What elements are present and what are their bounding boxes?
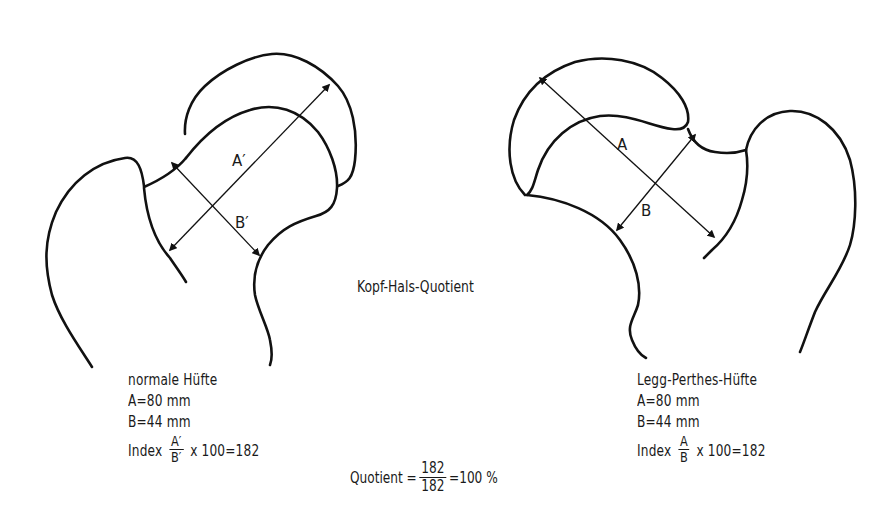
perthes-hip-index-fraction: A B: [678, 434, 690, 465]
perthes-hip-shaft-outline: [746, 111, 855, 352]
normal-hip-axis-b: [172, 163, 259, 255]
perthes-hip-axis-a: [540, 78, 714, 237]
normal-hip-title: normale Hüfte: [128, 370, 259, 391]
perthes-hip-index: Index A B x 100=182: [637, 436, 766, 467]
quotient-result: =100 %: [449, 469, 498, 487]
normal-hip-index-numerator: A′: [169, 434, 183, 450]
quotient-denominator: 182: [419, 478, 446, 495]
normal-hip-head: [186, 107, 337, 365]
perthes-hip-index-prefix: Index: [637, 442, 671, 460]
normal-hip-caption: normale Hüfte A=80 mm B=44 mm Index A′ B…: [128, 370, 259, 467]
perthes-hip-label-a: A: [617, 136, 628, 154]
normal-hip-index-fraction: A′ B′: [169, 434, 183, 465]
normal-hip-drawing: A′ B′: [46, 54, 355, 367]
perthes-hip-trochanter: [704, 150, 747, 258]
normal-hip-index-denominator: B′: [169, 450, 183, 465]
perthes-hip-a-value: A=80 mm: [637, 391, 766, 412]
quotient-fraction: 182 182: [419, 460, 446, 495]
perthes-hip-index-denominator: B: [678, 450, 690, 465]
normal-hip-b-value: B=44 mm: [128, 412, 259, 433]
normal-hip-index-prefix: Index: [128, 442, 162, 460]
perthes-hip-neck-upper: [688, 129, 746, 153]
perthes-hip-axis-b: [617, 135, 695, 230]
normal-hip-label-a: A′: [232, 152, 246, 170]
perthes-hip-neck-lower: [527, 195, 646, 358]
normal-hip-acetabulum: [185, 54, 356, 186]
perthes-hip-drawing: A B: [510, 59, 856, 358]
perthes-hip-index-suffix: x 100=182: [696, 442, 765, 460]
perthes-hip-title: Legg-Perthes-Hüfte: [637, 370, 766, 391]
quotient-numerator: 182: [419, 460, 446, 478]
perthes-hip-b-value: B=44 mm: [637, 412, 766, 433]
figure-title: Kopf-Hals-Quotient: [357, 278, 474, 296]
normal-hip-label-b: B′: [235, 214, 249, 232]
perthes-hip-caption: Legg-Perthes-Hüfte A=80 mm B=44 mm Index…: [637, 370, 766, 467]
normal-hip-index-suffix: x 100=182: [190, 442, 259, 460]
normal-hip-shaft-outline: [46, 158, 144, 367]
quotient-formula: Quotient = 182 182 =100 %: [350, 460, 498, 495]
perthes-hip-head-cap: [510, 59, 689, 195]
perthes-hip-label-b: B: [641, 202, 651, 220]
normal-hip-index: Index A′ B′ x 100=182: [128, 436, 259, 467]
normal-hip-a-value: A=80 mm: [128, 391, 259, 412]
normal-hip-neck-upper: [144, 158, 186, 187]
perthes-hip-index-numerator: A: [678, 434, 690, 450]
quotient-prefix: Quotient =: [350, 469, 417, 487]
normal-hip-neck-inner: [144, 188, 186, 282]
